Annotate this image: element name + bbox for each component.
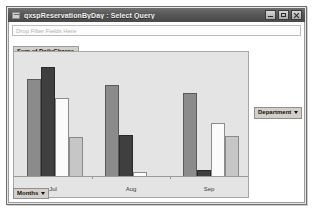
plot-area[interactable]: JulAugSep <box>13 51 249 198</box>
bar[interactable] <box>119 135 133 177</box>
bar[interactable] <box>69 137 83 177</box>
category-label: Sep <box>170 186 248 192</box>
bar[interactable] <box>55 98 69 177</box>
category-axis-line <box>14 176 248 177</box>
months-field-label: Months <box>17 190 38 198</box>
months-field-button[interactable]: Months <box>13 188 49 200</box>
category-label: Aug <box>92 186 170 192</box>
window-controls <box>265 10 302 20</box>
department-field-label: Department <box>258 109 291 117</box>
bar[interactable] <box>41 67 55 177</box>
chevron-down-icon <box>41 192 45 195</box>
filter-drop-zone-label: Drop Filter Fields Here <box>16 28 76 34</box>
restore-button[interactable] <box>278 10 289 20</box>
access-query-icon <box>12 11 21 20</box>
chevron-down-icon <box>294 111 298 114</box>
pivotchart-client-area: Drop Filter Fields Here Sum of DailyChar… <box>8 22 305 203</box>
legend-column: Department <box>251 51 300 198</box>
bar[interactable] <box>183 93 197 177</box>
axis-tick <box>92 176 93 179</box>
minimize-button[interactable] <box>265 10 276 20</box>
window-title: qxspReservationByDay : Select Query <box>24 12 265 19</box>
pivotchart: Sum of DailyCharge JulAugSep Department … <box>13 39 300 198</box>
plot-row: JulAugSep Department Months <box>13 51 300 198</box>
axis-tick <box>170 176 171 179</box>
bar[interactable] <box>211 123 225 177</box>
title-bar[interactable]: qxspReservationByDay : Select Query <box>8 8 305 22</box>
bar[interactable] <box>225 136 239 177</box>
department-field-button[interactable]: Department <box>254 107 302 119</box>
close-button[interactable] <box>291 10 302 20</box>
access-query-window: qxspReservationByDay : Select Query Drop… <box>6 6 307 205</box>
bar[interactable] <box>27 79 41 177</box>
bar[interactable] <box>105 85 119 177</box>
filter-drop-zone[interactable]: Drop Filter Fields Here <box>12 25 301 36</box>
